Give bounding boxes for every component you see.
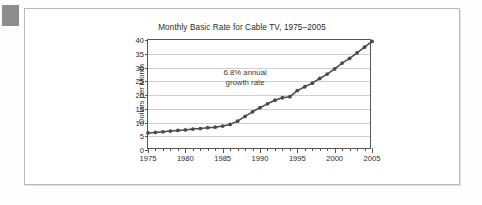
x-axis-tick-label: 1990 xyxy=(252,154,269,163)
data-series xyxy=(148,40,372,150)
x-axis-tick-label: 1995 xyxy=(289,154,306,163)
data-point xyxy=(310,81,314,85)
data-point xyxy=(340,61,344,65)
margin-mark xyxy=(2,5,19,26)
data-point xyxy=(221,124,225,128)
data-point xyxy=(169,129,173,133)
data-point xyxy=(228,123,232,127)
x-axis-tick xyxy=(372,148,373,153)
data-point xyxy=(355,51,359,55)
data-point xyxy=(303,85,307,89)
data-point xyxy=(266,102,270,106)
data-point xyxy=(176,129,180,133)
data-point xyxy=(363,45,367,49)
growth-rate-annotation: 6.8% annualgrowth rate xyxy=(223,68,266,89)
x-axis-tick-label: 2005 xyxy=(364,154,381,163)
data-point xyxy=(370,39,374,43)
data-point xyxy=(146,131,150,135)
data-point xyxy=(251,110,255,114)
data-point xyxy=(161,130,165,134)
data-point xyxy=(191,127,195,131)
data-point xyxy=(213,125,217,129)
data-point xyxy=(281,96,285,100)
x-axis-tick-label: 2000 xyxy=(326,154,343,163)
chart-card: Monthly Basic Rate for Cable TV, 1975–20… xyxy=(24,8,460,185)
data-point xyxy=(318,77,322,81)
plot-area: 0510152025303540 19751980198519901995200… xyxy=(147,39,371,149)
data-point xyxy=(273,98,277,102)
annotation-line-1: 6.8% annual xyxy=(223,68,266,79)
data-point xyxy=(288,95,292,99)
y-axis-tick-label: 5 xyxy=(140,132,144,141)
data-point xyxy=(198,127,202,131)
y-axis-tick-label: 40 xyxy=(136,36,144,45)
chart-title: Monthly Basic Rate for Cable TV, 1975–20… xyxy=(25,23,459,32)
x-axis-tick-label: 1985 xyxy=(214,154,231,163)
data-point xyxy=(348,57,352,61)
data-point xyxy=(183,128,187,132)
x-axis-tick-label: 1975 xyxy=(140,154,157,163)
plot-inner: 0510152025303540 19751980198519901995200… xyxy=(148,40,370,148)
annotation-line-2: growth rate xyxy=(223,79,266,90)
data-point xyxy=(258,106,262,110)
y-axis-title: Dollars per Month xyxy=(137,64,146,124)
y-axis-tick-label: 35 xyxy=(136,49,144,58)
screenshot-root: Monthly Basic Rate for Cable TV, 1975–20… xyxy=(0,0,482,205)
data-point xyxy=(236,119,240,123)
data-point xyxy=(333,67,337,71)
data-point xyxy=(295,89,299,93)
data-point xyxy=(206,126,210,130)
data-point xyxy=(154,131,158,135)
x-axis-tick-label: 1980 xyxy=(177,154,194,163)
data-point xyxy=(243,115,247,119)
data-point xyxy=(325,72,329,76)
